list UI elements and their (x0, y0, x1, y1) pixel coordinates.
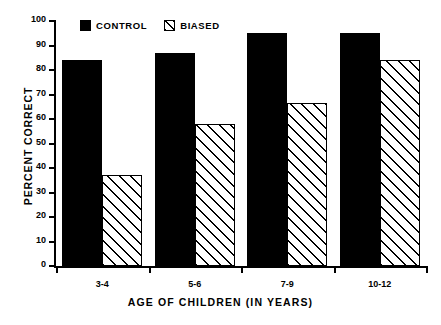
y-tick-label: 0 (41, 259, 46, 269)
y-tick-inner (51, 192, 56, 194)
x-tick-label: 5-6 (188, 279, 201, 289)
y-tick-label: 50 (36, 137, 46, 147)
y-tick-inner (51, 45, 56, 47)
legend-label: CONTROL (96, 20, 147, 31)
legend-swatch-biased-icon (164, 20, 175, 31)
y-tick-label: 100 (31, 14, 46, 24)
y-tick-inner (51, 20, 56, 22)
y-tick-inner (51, 143, 56, 145)
x-tick (56, 266, 58, 273)
y-tick: 90 (49, 45, 56, 47)
y-tick: 20 (49, 216, 56, 218)
legend-entry-biased: BIASED (164, 20, 220, 31)
legend-swatch-control-icon (80, 20, 91, 31)
y-tick: 30 (49, 192, 56, 194)
y-tick: 100 (49, 20, 56, 22)
bar-control-3-4 (62, 60, 102, 266)
x-tick (149, 266, 151, 273)
y-axis-title: PERCENT CORRECT (22, 46, 34, 246)
y-tick: 70 (49, 94, 56, 96)
y-tick-label: 70 (36, 88, 46, 98)
y-tick-inner (51, 118, 56, 120)
x-tick (426, 266, 428, 273)
bar-biased-3-4 (102, 175, 142, 266)
y-tick: 50 (49, 143, 56, 145)
bar-biased-7-9 (287, 103, 327, 266)
x-tick-label: 7-9 (281, 279, 294, 289)
y-tick-inner (51, 241, 56, 243)
y-tick-inner (51, 167, 56, 169)
legend-entry-control: CONTROL (80, 20, 147, 31)
bar-chart-figure: PERCENT CORRECT 0102030405060708090100 3… (0, 0, 441, 325)
y-tick: 40 (49, 167, 56, 169)
y-tick: 60 (49, 118, 56, 120)
x-tick-label: 3-4 (96, 279, 109, 289)
x-axis-title: AGE OF CHILDREN (IN YEARS) (0, 296, 441, 308)
x-tick (241, 266, 243, 273)
y-tick-label: 20 (36, 210, 46, 220)
y-tick-inner (51, 216, 56, 218)
y-tick: 10 (49, 241, 56, 243)
y-tick: 0 (49, 265, 56, 267)
bar-biased-5-6 (195, 124, 235, 266)
plot-area: 0102030405060708090100 3-45-67-910-12 (56, 21, 426, 266)
x-tick (334, 266, 336, 273)
y-tick-label: 30 (36, 186, 46, 196)
y-tick-label: 90 (36, 39, 46, 49)
bar-control-10-12 (340, 33, 380, 266)
chart-legend: CONTROLBIASED (80, 20, 220, 31)
bar-control-5-6 (155, 53, 195, 266)
y-tick-inner (51, 69, 56, 71)
x-tick-label: 10-12 (368, 279, 391, 289)
y-tick-label: 10 (36, 235, 46, 245)
y-tick-label: 60 (36, 112, 46, 122)
bar-control-7-9 (247, 33, 287, 266)
bar-biased-10-12 (380, 60, 420, 266)
y-tick-label: 80 (36, 63, 46, 73)
legend-label: BIASED (180, 20, 220, 31)
y-tick-label: 40 (36, 161, 46, 171)
y-tick-inner (51, 94, 56, 96)
y-tick: 80 (49, 69, 56, 71)
